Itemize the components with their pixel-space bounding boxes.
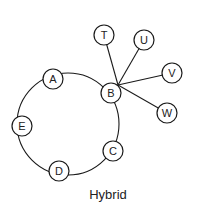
node-c-label: C [109, 145, 117, 157]
node-u: U [134, 30, 154, 50]
node-b-label: B [107, 87, 114, 99]
node-w: W [157, 103, 177, 123]
node-w-label: W [162, 107, 173, 119]
node-e: E [12, 116, 32, 136]
hybrid-topology-diagram: A B C D E T U V W Hybrid [0, 0, 198, 206]
node-e-label: E [18, 120, 25, 132]
node-v: V [162, 63, 182, 83]
node-d: D [49, 161, 69, 181]
diagram-caption: Hybrid [89, 187, 127, 202]
node-d-label: D [55, 165, 63, 177]
node-t: T [94, 25, 114, 45]
node-t-label: T [101, 29, 108, 41]
node-v-label: V [168, 67, 176, 79]
node-u-label: U [140, 34, 148, 46]
node-b: B [101, 83, 121, 103]
node-a: A [43, 69, 63, 89]
node-a-label: A [49, 73, 57, 85]
node-c: C [103, 141, 123, 161]
